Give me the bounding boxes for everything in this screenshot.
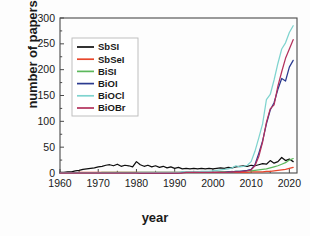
x-tick-label: 1990 [163, 177, 187, 189]
y-tick-label: 100 [37, 115, 55, 127]
x-tick-label: 2000 [201, 177, 225, 189]
y-tick-label: 50 [43, 141, 55, 153]
x-tick-label: 1970 [87, 177, 111, 189]
y-tick-label: 200 [37, 63, 55, 75]
figure: number of papers 05010015020025030019601… [0, 0, 310, 236]
legend-label-bioi: BiOI [98, 78, 118, 89]
x-tick-label: 2010 [239, 177, 263, 189]
legend-label-sbsei: SbSeI [98, 54, 124, 65]
x-tick-label: 1960 [48, 177, 72, 189]
series-line-bisi [60, 159, 293, 173]
legend-label-sbsi: SbSI [98, 41, 119, 52]
x-tick-label: 2020 [278, 177, 302, 189]
y-tick-label: 300 [37, 12, 55, 24]
legend-label-bisi: BiSI [98, 66, 116, 77]
legend-label-biocl: BiOCl [98, 90, 124, 101]
y-tick-label: 150 [37, 89, 55, 101]
line-chart: 0501001502002503001960197019801990200020… [0, 0, 310, 236]
x-tick-label: 1980 [125, 177, 149, 189]
legend-label-biobr: BiOBr [98, 102, 126, 113]
y-tick-label: 250 [37, 37, 55, 49]
x-axis-title: year [0, 210, 310, 225]
